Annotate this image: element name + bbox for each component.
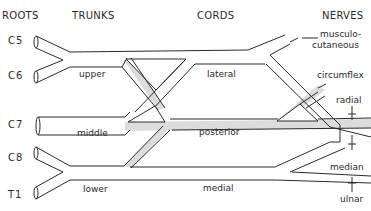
brachial-plexus-diagram: ROOTS TRUNKS CORDS NERVES C5 C6 C7 C8 T1… xyxy=(0,0,371,211)
root-c5: C5 xyxy=(8,36,23,46)
trunk-upper: upper xyxy=(79,70,105,79)
header-roots: ROOTS xyxy=(2,11,39,21)
header-trunks: TRUNKS xyxy=(72,11,115,21)
cord-lateral: lateral xyxy=(207,70,236,79)
nerve-musculocutaneous-line1: musculo- xyxy=(320,30,361,39)
header-nerves: NERVES xyxy=(322,11,364,21)
nerve-ulnar: ulnar xyxy=(340,195,363,204)
nerve-circumflex: circumflex xyxy=(317,71,364,80)
root-c8: C8 xyxy=(8,153,23,163)
cord-medial: medial xyxy=(203,184,234,193)
c6-root-end xyxy=(34,71,38,83)
header-cords: CORDS xyxy=(197,11,234,21)
root-c6: C6 xyxy=(8,71,23,81)
cord-posterior: posterior xyxy=(199,128,239,137)
root-t1: T1 xyxy=(8,190,22,200)
nerve-radial: radial xyxy=(336,96,361,105)
plexus-drawing xyxy=(0,0,371,211)
root-c7: C7 xyxy=(8,120,23,130)
c7-root-end xyxy=(36,117,40,135)
c5-root-end xyxy=(34,36,38,48)
trunk-lower: lower xyxy=(83,185,108,194)
t1-root-end xyxy=(34,187,38,199)
nerve-median: median xyxy=(330,163,364,172)
c8-root-end xyxy=(34,147,38,159)
nerve-musculocutaneous-line2: cutaneous xyxy=(312,41,359,50)
lower-posterior-division xyxy=(124,126,170,168)
trunk-middle: middle xyxy=(77,129,108,138)
